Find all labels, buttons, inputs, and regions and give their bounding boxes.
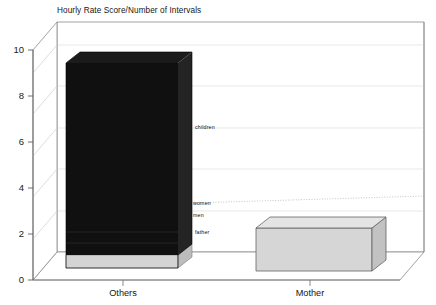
y-tick-label-0: 0 xyxy=(2,274,24,285)
x-category-label-others: Others xyxy=(93,288,153,298)
y-tick-label-8: 8 xyxy=(2,90,24,101)
bar-segment-father-front xyxy=(66,255,178,268)
bar-segment-dark-top xyxy=(66,52,192,63)
segment-label-men: men xyxy=(193,212,204,218)
bar-segment-dark-front xyxy=(66,63,178,255)
segment-label-father: father xyxy=(195,229,209,235)
plot-area xyxy=(0,0,436,305)
y-tick-label-10: 10 xyxy=(2,44,24,55)
y-tick-label-6: 6 xyxy=(2,136,24,147)
bar-others[interactable] xyxy=(66,52,192,268)
x-axis-ticks xyxy=(123,280,310,286)
x-category-label-mother: Mother xyxy=(280,288,340,298)
left-wall xyxy=(33,22,57,280)
bar-mother[interactable] xyxy=(256,217,386,271)
segment-label-children: children xyxy=(195,124,215,130)
bar-mother-front xyxy=(256,228,372,271)
y-axis-ticks xyxy=(28,50,33,280)
y-tick-label-2: 2 xyxy=(2,228,24,239)
y-tick-label-4: 4 xyxy=(2,182,24,193)
bar-segment-dark-side xyxy=(178,52,192,255)
chart-root: Hourly Rate Score/Number of Intervals xyxy=(0,0,436,305)
bar-mother-top xyxy=(256,217,386,228)
segment-label-women: women xyxy=(193,200,211,206)
